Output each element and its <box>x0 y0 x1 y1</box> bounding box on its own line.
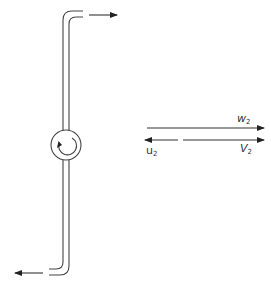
rotation-arrow-icon <box>59 138 77 155</box>
pipe-upper-outer-wall <box>63 11 83 131</box>
label-u2: u2 <box>146 145 157 158</box>
pipe-upper-inner-wall <box>69 17 83 131</box>
pipe-lower-outer-wall <box>49 160 69 275</box>
rotation-arrowhead-icon <box>57 141 62 148</box>
label-V2: V2 <box>240 143 252 156</box>
diagram-canvas <box>0 0 271 286</box>
label-w2: w2 <box>237 113 250 126</box>
pipe-arm <box>49 11 83 275</box>
hub <box>51 130 81 160</box>
pipe-lower-inner-wall <box>49 160 63 269</box>
